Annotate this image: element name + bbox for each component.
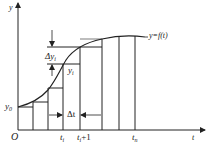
y0-label: y0	[5, 102, 12, 112]
delta-t-label: Δt	[67, 110, 75, 119]
diagram-canvas: y t O y=f(t) y0 yi Δyi Δt ti ti+1 tn	[0, 0, 208, 147]
curve-y-f-t	[18, 36, 145, 107]
diagram-graphics	[0, 0, 208, 147]
tn-label: tn	[132, 133, 138, 143]
ti-label: ti	[60, 133, 64, 143]
curve-label: y=f(t)	[149, 32, 168, 40]
ti-plus-1-label: ti+1	[77, 133, 91, 143]
step-rectangles	[18, 36, 135, 130]
y-axis-label: y	[9, 4, 13, 12]
origin-label: O	[11, 132, 18, 142]
delta-y-label: Δyi	[45, 52, 56, 62]
x-axis-label: t	[192, 134, 194, 142]
yi-label: yi	[68, 66, 74, 76]
